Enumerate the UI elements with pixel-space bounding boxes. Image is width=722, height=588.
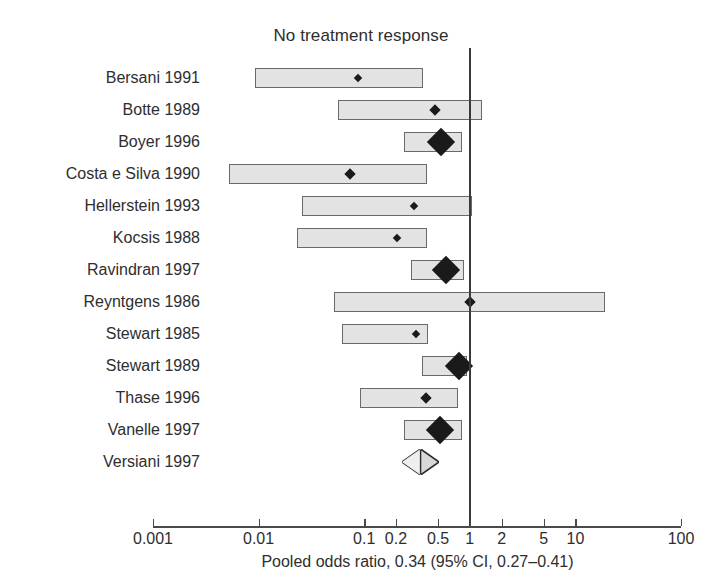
x-axis-tick-label: 0.5 <box>427 530 449 548</box>
study-row: Boyer 1996 <box>0 126 722 158</box>
x-axis-tick <box>364 519 365 526</box>
study-label: Botte 1989 <box>0 94 200 126</box>
x-axis-tick-label: 0.01 <box>243 530 274 548</box>
study-row: Stewart 1989 <box>0 350 722 382</box>
x-axis-tick <box>438 519 439 526</box>
x-axis-tick-label: 100 <box>668 530 695 548</box>
study-row: Vanelle 1997 <box>0 414 722 446</box>
plot-area: Bersani 1991Botte 1989Boyer 1996Costa e … <box>0 0 722 588</box>
x-axis-tick <box>681 519 682 526</box>
study-row: Kocsis 1988 <box>0 222 722 254</box>
point-estimate-marker <box>393 234 401 242</box>
forest-plot-figure: No treatment response Bersani 1991Botte … <box>0 0 722 588</box>
point-estimate-marker <box>426 416 454 444</box>
point-estimate-marker <box>411 330 419 338</box>
pooled-summary-diamond <box>402 449 439 475</box>
study-label: Stewart 1989 <box>0 350 200 382</box>
study-row: Ravindran 1997 <box>0 254 722 286</box>
point-estimate-marker <box>410 202 418 210</box>
x-axis-tick-label: 0.001 <box>133 530 173 548</box>
confidence-interval-bar <box>360 388 459 408</box>
point-estimate-marker <box>432 256 460 284</box>
study-label: Ravindran 1997 <box>0 254 200 286</box>
confidence-interval-bar <box>404 132 462 152</box>
point-estimate-marker <box>344 168 355 179</box>
x-axis-tick-label: 0.1 <box>353 530 375 548</box>
confidence-interval-bar <box>422 356 468 376</box>
study-row: Bersani 1991 <box>0 62 722 94</box>
point-estimate-marker <box>427 128 455 156</box>
study-label: Vanelle 1997 <box>0 414 200 446</box>
x-axis-tick <box>502 519 503 526</box>
confidence-interval-bar <box>302 196 472 216</box>
x-axis-tick-label: 5 <box>539 530 548 548</box>
x-axis-tick-label: 0.2 <box>385 530 407 548</box>
x-axis-line <box>153 526 681 528</box>
x-axis-caption: Pooled odds ratio, 0.34 (95% CI, 0.27–0.… <box>150 553 685 571</box>
study-label: Stewart 1985 <box>0 318 200 350</box>
study-row: Reyntgens 1986 <box>0 286 722 318</box>
study-row: Hellerstein 1993 <box>0 190 722 222</box>
study-label: Thase 1996 <box>0 382 200 414</box>
x-axis-tick <box>259 519 260 526</box>
x-axis-tick-label: 10 <box>566 530 584 548</box>
x-axis-tick <box>470 519 471 526</box>
pooled-summary-row: Versiani 1997 <box>0 446 722 478</box>
null-effect-line <box>469 48 471 526</box>
study-label: Bersani 1991 <box>0 62 200 94</box>
point-estimate-marker <box>354 74 362 82</box>
confidence-interval-bar <box>338 100 483 120</box>
study-label: Versiani 1997 <box>0 446 200 478</box>
confidence-interval-bar <box>229 164 427 184</box>
study-row: Stewart 1985 <box>0 318 722 350</box>
confidence-interval-bar <box>404 420 462 440</box>
study-row: Thase 1996 <box>0 382 722 414</box>
confidence-interval-bar <box>411 260 464 280</box>
x-axis-tick <box>396 519 397 526</box>
x-axis: 0.0010.010.10.20.512510100 <box>153 526 681 556</box>
confidence-interval-bar <box>297 228 427 248</box>
x-axis-tick-label: 1 <box>465 530 474 548</box>
confidence-interval-bar <box>342 324 428 344</box>
study-label: Boyer 1996 <box>0 126 200 158</box>
x-axis-tick <box>544 519 545 526</box>
study-row: Costa e Silva 1990 <box>0 158 722 190</box>
study-row: Botte 1989 <box>0 94 722 126</box>
confidence-interval-bar <box>255 68 423 88</box>
x-axis-tick <box>575 519 576 526</box>
study-label: Kocsis 1988 <box>0 222 200 254</box>
study-label: Costa e Silva 1990 <box>0 158 200 190</box>
x-axis-tick-label: 2 <box>497 530 506 548</box>
point-estimate-marker <box>430 104 441 115</box>
study-label: Reyntgens 1986 <box>0 286 200 318</box>
point-estimate-marker <box>421 392 432 403</box>
x-axis-tick <box>153 519 154 526</box>
study-label: Hellerstein 1993 <box>0 190 200 222</box>
